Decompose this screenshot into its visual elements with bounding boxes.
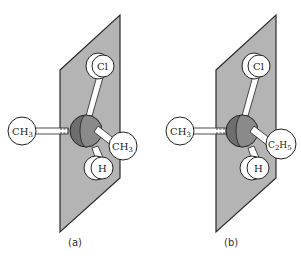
atom-right-ch3: CH3 <box>109 132 137 160</box>
molecule-diagram: CH3 Cl H <box>0 0 301 262</box>
atom-top-cl: Cl <box>86 53 114 79</box>
panel-b: CH3 Cl H C2H5 (b) <box>166 15 296 248</box>
atom-top-cl: Cl <box>242 53 270 79</box>
atom-bottom-h: H <box>84 156 113 180</box>
svg-text:Cl: Cl <box>253 61 264 72</box>
bond-left <box>34 128 72 134</box>
atom-left-ch3: CH3 <box>8 117 36 145</box>
atom-right-c2h5: C2H5 <box>266 129 296 159</box>
atom-bottom-h: H <box>240 156 269 180</box>
caption-a: (a) <box>68 237 82 248</box>
svg-text:Cl: Cl <box>97 61 108 72</box>
panel-a: CH3 Cl H <box>8 15 137 248</box>
bond-left <box>192 128 228 134</box>
svg-text:H: H <box>98 163 107 174</box>
atom-left-ch3: CH3 <box>166 117 194 145</box>
svg-text:H: H <box>254 163 263 174</box>
caption-b: (b) <box>224 237 238 248</box>
